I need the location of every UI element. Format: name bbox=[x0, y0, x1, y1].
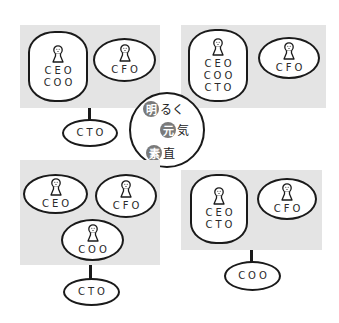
role-label: CFO bbox=[108, 64, 141, 76]
role-bubble-cto: CTO bbox=[63, 278, 120, 306]
slogan-honest: 素 直 bbox=[146, 144, 175, 161]
kanji-badge: 元 bbox=[160, 122, 176, 138]
role-bubble-ceo-coo-cto: CEO COO CTO bbox=[188, 29, 248, 102]
role-label: CTO bbox=[203, 219, 236, 231]
kanji-badge: 明 bbox=[143, 101, 159, 117]
role-bubble-cfo: CFO bbox=[257, 178, 317, 220]
role-label: CFO bbox=[273, 62, 306, 74]
role-bubble-ceo-coo: CEO COO bbox=[28, 31, 88, 102]
person-icon bbox=[282, 42, 296, 60]
role-label: CEO bbox=[41, 65, 74, 77]
slogan-energetic: 元 気 bbox=[160, 121, 189, 138]
role-bubble-cfo: CFO bbox=[258, 37, 320, 79]
person-icon bbox=[49, 178, 63, 196]
role-label: COO bbox=[201, 70, 236, 82]
role-label: CFO bbox=[271, 203, 304, 215]
slogan-bright: 明 るく bbox=[143, 100, 184, 117]
role-bubble-cto: CTO bbox=[62, 119, 118, 147]
slogan-text: 直 bbox=[163, 144, 175, 161]
person-icon bbox=[280, 183, 294, 201]
slogan-text: 気 bbox=[177, 121, 189, 138]
person-icon bbox=[86, 224, 100, 242]
role-label: COO bbox=[41, 77, 76, 89]
role-label: CTO bbox=[75, 286, 108, 298]
person-icon bbox=[119, 180, 133, 198]
role-bubble-coo: COO bbox=[224, 261, 281, 291]
role-label: CEO bbox=[202, 207, 235, 219]
person-icon bbox=[51, 45, 65, 63]
person-icon bbox=[118, 44, 132, 62]
role-bubble-coo: COO bbox=[61, 219, 124, 261]
role-bubble-ceo-cto: CEO CTO bbox=[190, 174, 248, 244]
role-label: CFO bbox=[110, 200, 143, 212]
slogan-text: るく bbox=[160, 100, 184, 117]
role-bubble-cfo: CFO bbox=[93, 38, 156, 82]
role-bubble-ceo: CEO bbox=[23, 174, 88, 214]
person-icon bbox=[212, 187, 226, 205]
role-label: CEO bbox=[39, 198, 72, 210]
role-label: CTO bbox=[74, 127, 107, 139]
person-icon bbox=[211, 38, 225, 56]
role-label: CTO bbox=[202, 82, 235, 94]
kanji-badge: 素 bbox=[146, 145, 162, 161]
role-label: CEO bbox=[201, 58, 234, 70]
role-label: COO bbox=[75, 244, 110, 256]
role-label: COO bbox=[235, 270, 270, 282]
role-bubble-cfo: CFO bbox=[95, 174, 157, 218]
